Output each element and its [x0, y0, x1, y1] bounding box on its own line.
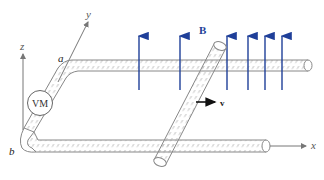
point-a-label: a	[58, 53, 64, 64]
velocity-label: v	[220, 99, 225, 108]
bottom-rail	[20, 128, 270, 152]
field-label: B	[199, 25, 206, 36]
z-axis-label: z	[20, 41, 24, 52]
x-axis-label: x	[311, 140, 316, 151]
voltmeter-label: VM	[32, 98, 48, 109]
point-b-label: b	[9, 146, 15, 157]
voltmeter: VM	[27, 90, 53, 116]
top-rail	[24, 60, 312, 132]
y-axis-label: y	[86, 9, 91, 20]
diagram-canvas	[0, 0, 324, 180]
